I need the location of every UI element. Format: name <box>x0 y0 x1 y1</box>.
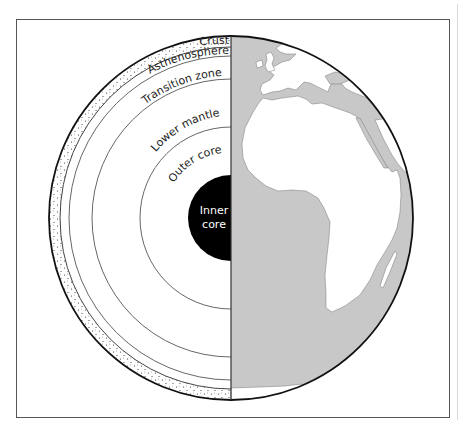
earth-cross-section: Crust Asthenosphere Transition zone Lowe… <box>0 0 465 425</box>
caspian-sea <box>340 46 350 66</box>
label-inner-core-line1: Inner <box>200 204 229 217</box>
label-inner-core-line2: core <box>202 218 226 231</box>
globe-map-half <box>231 30 421 410</box>
